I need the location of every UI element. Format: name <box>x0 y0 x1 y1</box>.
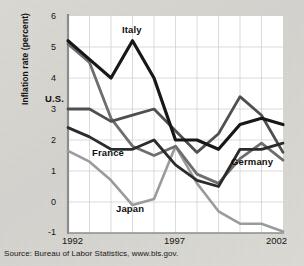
plot-svg <box>0 0 304 266</box>
source-note: Source: Bureau of Labor Statistics, www.… <box>4 249 178 258</box>
y-tick-6: 6 <box>34 12 56 21</box>
series-label-france: France <box>92 147 124 158</box>
series-label-italy: Italy <box>122 24 142 35</box>
y-tick-2: 2 <box>34 136 56 145</box>
y-tick-3: 3 <box>34 105 56 114</box>
y-axis-title: Inflation rate (percent) <box>20 0 30 144</box>
y-tick-0: 0 <box>34 198 56 207</box>
figure-page: Inflation rate (percent) 6 5 4 3 2 1 0 -… <box>0 0 304 266</box>
y-tick-neg1: -1 <box>34 228 56 237</box>
y-tick-5: 5 <box>34 43 56 52</box>
y-tick-1: 1 <box>34 167 56 176</box>
x-tick-1992: 1992 <box>62 236 83 246</box>
series-label-us: U.S. <box>45 93 64 104</box>
series-label-germany: Germany <box>231 156 273 167</box>
x-tick-2002: 2002 <box>266 236 287 246</box>
inflation-line-chart: Inflation rate (percent) 6 5 4 3 2 1 0 -… <box>0 0 304 266</box>
x-tick-1997: 1997 <box>164 236 185 246</box>
y-tick-4: 4 <box>34 74 56 83</box>
series-label-japan: Japan <box>116 203 144 214</box>
